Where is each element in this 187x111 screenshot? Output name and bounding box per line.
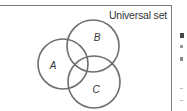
set-label-c: C (92, 84, 100, 95)
text-fragment (180, 100, 183, 101)
text-fragment (180, 57, 183, 61)
text-fragment (180, 33, 184, 38)
venn-diagram: ABC (0, 0, 187, 111)
set-label-b: B (94, 32, 101, 43)
set-label-a: A (49, 60, 57, 71)
text-fragment (180, 45, 183, 48)
set-circle-c (68, 56, 120, 108)
text-fragment (180, 88, 183, 89)
set-circle-a (38, 39, 88, 89)
